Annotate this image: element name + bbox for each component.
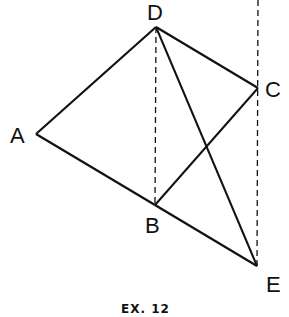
label-d: D [147, 0, 163, 25]
segment-dc [156, 27, 258, 88]
dashed-line-ce [257, 0, 258, 266]
label-e: E [266, 272, 281, 297]
geometry-figure: D C A B E EX. 12 [0, 0, 289, 317]
label-c: C [265, 77, 281, 102]
figure-caption: EX. 12 [121, 302, 170, 316]
segment-be [155, 205, 257, 266]
label-a: A [10, 123, 25, 148]
segment-de [156, 27, 257, 266]
dashed-line-db [155, 27, 156, 205]
segment-ad [36, 27, 156, 134]
label-b: B [145, 213, 160, 238]
segment-ab [36, 134, 155, 205]
